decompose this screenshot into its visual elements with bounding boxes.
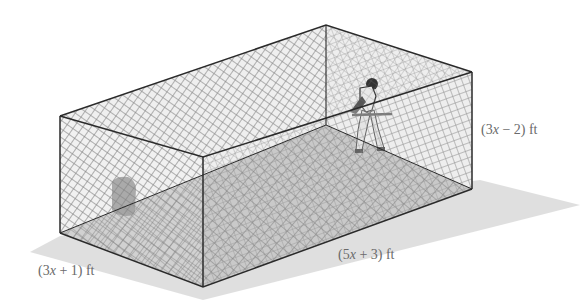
height-label: (3x − 2) ft xyxy=(481,122,538,138)
batting-cage-diagram xyxy=(0,0,587,308)
width-label: (3x + 1) ft xyxy=(38,263,95,279)
length-label: (5x + 3) ft xyxy=(338,247,395,263)
